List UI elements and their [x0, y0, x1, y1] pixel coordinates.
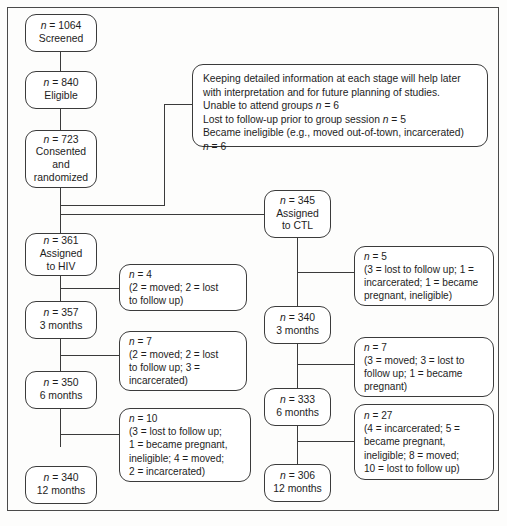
node-hiv-assigned-label-1: Assigned: [40, 248, 83, 261]
node-ctl-month3-count: n = 340: [280, 312, 315, 325]
node-ctl-month12-label: 12 months: [273, 483, 322, 496]
node-hiv-month6-count: n = 350: [44, 377, 79, 390]
node-eligible[interactable]: n = 840 Eligible: [25, 71, 97, 109]
node-consented-label-1: Consented: [36, 146, 86, 159]
connector-ctl-loss2: [297, 364, 355, 365]
connector-to-infobox-vertical: [164, 104, 165, 206]
node-ctl-month12-count: n = 306: [280, 470, 315, 483]
anno-hiv-loss-1-line-2: to follow up): [129, 294, 238, 307]
anno-ctl-loss-2-count: n = 7: [364, 341, 485, 354]
anno-hiv-loss-2-line-2: to follow up; 3 =: [129, 361, 238, 374]
connector-hiv-loss3: [60, 434, 120, 435]
node-consented-label-3: randomized: [34, 172, 88, 185]
connector-screened-to-eligible: [60, 51, 61, 71]
node-hiv-month3[interactable]: n = 357 3 months: [25, 301, 97, 339]
connector-ctl-m3-to-m6: [297, 344, 298, 388]
node-eligible-count: n = 840: [44, 77, 79, 90]
anno-ctl-loss-2: n = 7 (3 = moved; 3 = lost to follow up;…: [354, 337, 494, 397]
anno-hiv-loss-2: n = 7 (2 = moved; 2 = lost to follow up;…: [119, 331, 247, 391]
info-box-item-1: Unable to attend groups n = 6: [203, 99, 477, 113]
anno-hiv-loss-3-line-3: ineligible; 4 = moved;: [129, 452, 242, 465]
node-consented-label-2: and: [52, 159, 69, 172]
info-box-paragraph-line-1: Keeping detailed information at each sta…: [203, 72, 477, 86]
connector-hiv-m6-to-m12: [60, 409, 61, 447]
node-screened[interactable]: n = 1064 Screened: [25, 14, 97, 52]
node-hiv-month6-label: 6 months: [40, 390, 83, 403]
connector-randomize-to-ctl: [60, 214, 265, 215]
node-ctl-month3[interactable]: n = 340 3 months: [264, 306, 331, 344]
node-screened-count: n = 1064: [41, 20, 82, 33]
anno-hiv-loss-2-count: n = 7: [129, 335, 238, 348]
connector-infobox-stub: [164, 104, 192, 105]
connector-ctl-loss1: [297, 272, 355, 273]
anno-ctl-loss-1-line-2: incarcerated; 1 = became: [364, 276, 485, 289]
node-hiv-assigned[interactable]: n = 361 Assigned to HIV: [25, 233, 97, 276]
anno-ctl-loss-2-line-1: (3 = moved; 3 = lost to: [364, 354, 485, 367]
node-hiv-month3-count: n = 357: [44, 307, 79, 320]
node-ctl-month3-label: 3 months: [276, 325, 319, 338]
anno-ctl-loss-1-line-3: pregnant, ineligible): [364, 289, 485, 302]
node-ctl-assigned-label-1: Assigned: [276, 208, 319, 221]
anno-hiv-loss-2-line-1: (2 = moved; 2 = lost: [129, 348, 238, 361]
anno-ctl-loss-3-count: n = 27: [364, 409, 485, 422]
anno-hiv-loss-3-count: n = 10: [129, 412, 242, 425]
node-ctl-month6[interactable]: n = 333 6 months: [264, 388, 331, 426]
connector-to-infobox-horizontal: [60, 205, 165, 206]
node-consented[interactable]: n = 723 Consented and randomized: [25, 130, 97, 188]
anno-ctl-loss-2-line-2: follow up; 1 = became: [364, 367, 485, 380]
node-hiv-assigned-label-2: to HIV: [47, 261, 76, 274]
info-box-paragraph-line-2: with interpretation and for future plann…: [203, 86, 477, 100]
info-box-item-4: n = 6: [203, 140, 477, 154]
anno-hiv-loss-1-count: n = 4: [129, 268, 238, 281]
node-consented-count: n = 723: [44, 134, 79, 147]
anno-hiv-loss-2-line-3: incarcerated): [129, 374, 238, 387]
anno-ctl-loss-1-line-1: (3 = lost to follow up; 1 =: [364, 263, 485, 276]
anno-hiv-loss-1-line-1: (2 = moved; 2 = lost: [129, 281, 238, 294]
anno-ctl-loss-3-line-3: ineligible; 8 = moved;: [364, 449, 485, 462]
anno-ctl-loss-2-line-3: pregnant): [364, 380, 485, 393]
node-hiv-assigned-count: n = 361: [44, 235, 79, 248]
connector-consented-spine: [60, 188, 61, 233]
connector-ctl-loss3: [297, 441, 355, 442]
connector-eligible-to-consented: [60, 109, 61, 130]
node-ctl-month12[interactable]: n = 306 12 months: [264, 464, 331, 502]
connector-ctl-m6-to-m12: [297, 426, 298, 464]
anno-hiv-loss-3: n = 10 (3 = lost to follow up; 1 = becam…: [119, 408, 251, 482]
anno-ctl-loss-1: n = 5 (3 = lost to follow up; 1 = incarc…: [354, 246, 494, 306]
anno-hiv-loss-3-line-2: 1 = became pregnant,: [129, 438, 242, 451]
node-ctl-month6-count: n = 333: [280, 394, 315, 407]
node-hiv-month6[interactable]: n = 350 6 months: [25, 371, 97, 409]
flowchart-canvas: n = 1064 Screened n = 840 Eligible n = 7…: [0, 0, 507, 526]
node-hiv-month12-label: 12 months: [37, 485, 86, 498]
anno-ctl-loss-3-line-4: 10 = lost to follow up): [364, 462, 485, 475]
node-screened-label: Screened: [39, 33, 83, 46]
node-hiv-month12[interactable]: n = 340 12 months: [25, 466, 97, 504]
anno-ctl-loss-3: n = 27 (4 = incarcerated; 5 = became pre…: [354, 404, 494, 480]
connector-hiv-loss1: [60, 288, 120, 289]
anno-hiv-loss-1: n = 4 (2 = moved; 2 = lost to follow up): [119, 264, 247, 311]
node-ctl-assigned-label-2: to CTL: [282, 220, 313, 233]
info-box: Keeping detailed information at each sta…: [192, 64, 488, 147]
node-hiv-month12-count: n = 340: [44, 472, 79, 485]
info-box-item-3: Became ineligible (e.g., moved out-of-to…: [203, 126, 477, 140]
node-hiv-month3-label: 3 months: [40, 320, 83, 333]
anno-hiv-loss-3-line-1: (3 = lost to follow up;: [129, 425, 242, 438]
info-box-item-2: Lost to follow-up prior to group session…: [203, 113, 477, 127]
anno-ctl-loss-1-count: n = 5: [364, 250, 485, 263]
connector-hiv-loss2: [60, 355, 120, 356]
anno-ctl-loss-3-line-2: became pregnant,: [364, 435, 485, 448]
node-eligible-label: Eligible: [44, 90, 78, 103]
node-ctl-assigned[interactable]: n = 345 Assigned to CTL: [264, 190, 331, 238]
node-ctl-assigned-count: n = 345: [280, 195, 315, 208]
node-ctl-month6-label: 6 months: [276, 407, 319, 420]
anno-ctl-loss-3-line-1: (4 = incarcerated; 5 =: [364, 422, 485, 435]
anno-hiv-loss-3-line-4: 2 = incarcerated): [129, 465, 242, 478]
